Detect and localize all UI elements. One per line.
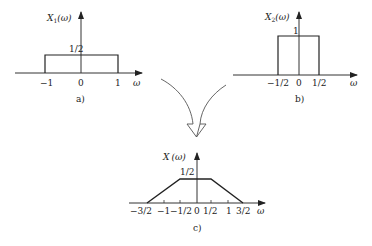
tick-label: 0 <box>194 206 200 216</box>
height-label: 1/2 <box>180 167 194 177</box>
y-label: X2(ω) <box>264 12 290 23</box>
curved-arrow <box>161 79 226 137</box>
convolution-diagram: X1(ω) 1/2 −1 0 1 ω a) X2(ω) 1 −1/2 0 1/2… <box>0 0 372 246</box>
caption: a) <box>76 94 85 104</box>
panel-b: X2(ω) 1 −1/2 0 1/2 ω b) <box>233 12 358 104</box>
tick-label: 1 <box>115 78 121 88</box>
caption: b) <box>295 94 304 104</box>
y-label: X1(ω) <box>46 13 72 24</box>
trapezoid <box>147 179 243 203</box>
tick-label: −1 <box>40 78 53 88</box>
height-label: 1 <box>293 26 299 36</box>
tick-label: 1 <box>226 206 232 216</box>
panel-a: X1(ω) 1/2 −1 0 1 ω a) <box>15 12 142 104</box>
tick-label: 1/2 <box>312 78 326 88</box>
tick-label: 1/2 <box>203 206 217 216</box>
x-label: ω <box>257 206 265 216</box>
tick-label: 0 <box>78 78 84 88</box>
panel-c: X(ω) 1/2 −3/2 −1 −1/2 0 1/2 1 3/2 ω c) <box>129 152 265 233</box>
tick-label: −3/2 <box>130 206 152 216</box>
height-label: 1/2 <box>69 44 83 54</box>
tick-label: 3/2 <box>236 206 250 216</box>
tick-label: −1/2 <box>267 78 289 88</box>
caption: c) <box>193 223 202 233</box>
tick-label: −1 <box>157 206 170 216</box>
tick-label: 0 <box>296 78 302 88</box>
y-label: X(ω) <box>162 152 186 162</box>
x-label: ω <box>350 78 358 88</box>
x-label: ω <box>133 78 141 88</box>
tick-label: −1/2 <box>170 206 192 216</box>
